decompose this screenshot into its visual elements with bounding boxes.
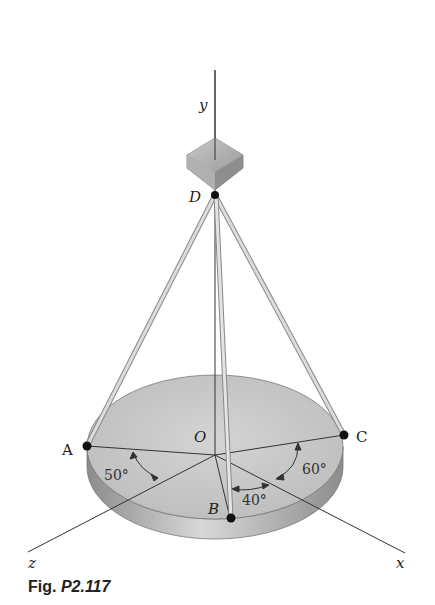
caption-number: P2.117 (61, 578, 111, 595)
point-C (340, 431, 349, 440)
point-A (83, 442, 92, 451)
label-D: D (188, 188, 201, 206)
label-x: x (396, 554, 405, 572)
label-A: A (61, 441, 73, 459)
angle-label-60: 60° (302, 461, 327, 477)
angle-label-50: 50° (104, 467, 129, 483)
angle-label-40: 40° (242, 492, 267, 508)
label-C: C (356, 428, 367, 446)
point-B (227, 514, 236, 523)
caption-prefix: Fig. (28, 578, 56, 595)
label-B: B (207, 500, 219, 518)
figure-caption: Fig. P2.117 (28, 578, 110, 596)
label-y: y (198, 96, 208, 114)
point-D (211, 191, 219, 199)
diagram-canvas: y D O A C B z x 50° 60° 40° (0, 0, 435, 605)
label-O: O (194, 428, 206, 446)
label-z: z (27, 554, 36, 572)
